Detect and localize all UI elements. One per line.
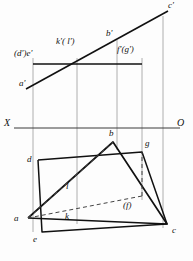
figure-canvas <box>0 0 193 261</box>
label-d: d <box>27 155 32 164</box>
label-b: b <box>109 129 114 138</box>
upper-inclined-line <box>26 11 168 89</box>
label-b-prime: b' <box>106 29 112 38</box>
projection-lines <box>33 16 163 232</box>
label-fg-prime: f'(g') <box>117 45 134 54</box>
label-c: c <box>172 226 176 235</box>
label-de-prime: (d')e' <box>14 49 32 58</box>
triangle-abc <box>28 142 167 224</box>
label-kl-prime: k'( l') <box>56 37 75 46</box>
line-a-b-c-prime <box>26 11 168 89</box>
label-k: k <box>65 212 69 221</box>
label-g: g <box>145 139 150 148</box>
label-e: e <box>33 235 37 244</box>
label-a: a <box>14 214 19 223</box>
geometry-figure: X O c' b' a' (d')e' k'( l') f'(g') d b g… <box>0 0 193 261</box>
axis-label-o: O <box>177 118 184 128</box>
lower-triangle <box>28 142 167 224</box>
label-a-prime: a' <box>19 79 25 88</box>
label-f: (f) <box>123 201 132 210</box>
axis-label-x: X <box>4 118 10 128</box>
label-c-prime: c' <box>168 1 174 10</box>
label-l: l <box>66 182 69 191</box>
